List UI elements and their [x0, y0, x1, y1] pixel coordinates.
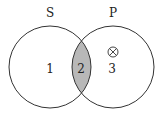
- region-2-label: 2: [77, 62, 85, 76]
- venn-diagram: S P 1 2 3: [0, 0, 162, 119]
- existence-mark-icon: [108, 47, 118, 57]
- set-s-label: S: [46, 6, 54, 20]
- region-3-label: 3: [108, 62, 116, 76]
- region-1-label: 1: [46, 62, 54, 76]
- set-p-label: P: [109, 6, 117, 20]
